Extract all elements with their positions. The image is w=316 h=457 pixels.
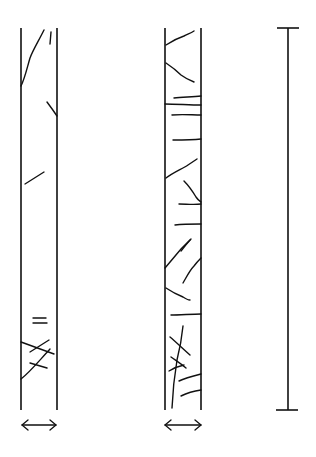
- fracture: [166, 288, 190, 300]
- fracture: [174, 96, 201, 98]
- fracture: [50, 32, 51, 44]
- fracture: [21, 30, 44, 86]
- column-right: [165, 28, 201, 430]
- fracture: [165, 240, 190, 268]
- fracture: [184, 181, 201, 202]
- fracture: [166, 31, 194, 45]
- fracture: [165, 104, 201, 105]
- fracture: [170, 337, 190, 355]
- fracture: [183, 258, 201, 283]
- diagram-canvas: [0, 0, 316, 457]
- fracture: [47, 102, 57, 116]
- column-left: [21, 28, 57, 430]
- column-right-fractures: [165, 31, 201, 408]
- scale-bar: [276, 28, 299, 410]
- width-arrow-right: [165, 420, 201, 430]
- width-arrow-left: [22, 420, 56, 430]
- fracture: [175, 224, 201, 225]
- fracture: [166, 63, 194, 82]
- fracture: [25, 172, 44, 184]
- fracture: [179, 374, 201, 381]
- fracture: [173, 139, 201, 140]
- fracture: [181, 390, 201, 396]
- fracture: [166, 159, 197, 178]
- column-left-fractures: [21, 30, 57, 379]
- fracture: [171, 314, 201, 315]
